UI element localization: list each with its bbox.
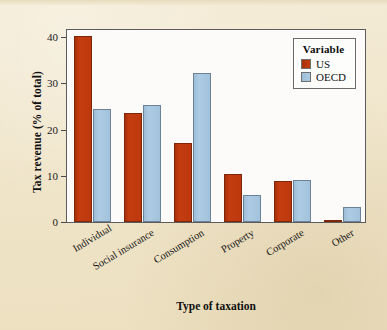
- bar-oecd: [343, 207, 361, 222]
- legend-item-oecd: OECD: [301, 71, 346, 83]
- bar-us: [174, 143, 192, 222]
- y-tick-label: 10: [47, 169, 58, 184]
- bar-group: [174, 30, 211, 222]
- bar-group: [124, 30, 161, 222]
- y-tick-label: 30: [47, 76, 58, 91]
- x-axis: IndividualSocial insuranceConsumptionPro…: [66, 225, 366, 287]
- bar-us: [324, 220, 342, 222]
- bar-group: [74, 30, 111, 222]
- bar-us: [224, 174, 242, 222]
- bar-oecd: [93, 109, 111, 222]
- bar-group: [224, 30, 261, 222]
- bar-oecd: [243, 195, 261, 222]
- bar-us: [124, 113, 142, 222]
- y-tick-label: 40: [47, 30, 58, 45]
- chart-legend: Variable US OECD: [293, 38, 356, 89]
- y-tick-label: 20: [47, 123, 58, 138]
- legend-label-us: US: [316, 58, 330, 70]
- legend-item-us: US: [301, 58, 346, 70]
- x-axis-label: Individual: [71, 227, 106, 254]
- bar-oecd: [143, 105, 161, 222]
- y-tick-label: 0: [53, 215, 59, 230]
- bar-us: [74, 36, 92, 222]
- bar-oecd: [193, 73, 211, 222]
- legend-label-oecd: OECD: [316, 71, 346, 83]
- bar-us: [274, 181, 292, 222]
- plot-area: Variable US OECD: [66, 29, 366, 223]
- y-axis: 010203040: [0, 29, 66, 223]
- legend-swatch-us-icon: [301, 59, 311, 69]
- bar-oecd: [293, 180, 311, 222]
- legend-title: Variable: [301, 43, 346, 55]
- legend-swatch-oecd-icon: [301, 72, 311, 82]
- bar-chart-figure: Tax revenue (% of total) 010203040 Varia…: [0, 0, 387, 330]
- x-axis-title: Type of taxation: [66, 300, 366, 312]
